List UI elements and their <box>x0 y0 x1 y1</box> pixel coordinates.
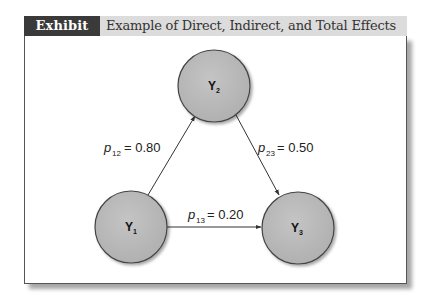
svg-text:= 0.20: = 0.20 <box>207 207 244 222</box>
svg-text:p: p <box>257 140 265 155</box>
node-y3-subscript: 3 <box>299 229 303 236</box>
svg-text:= 0.50: = 0.50 <box>277 140 314 155</box>
node-y2: Y 2 <box>178 50 250 122</box>
node-y1-subscript: 1 <box>133 228 137 235</box>
svg-text:p: p <box>187 207 195 222</box>
edge-label-p23: p 23 = 0.50 <box>257 140 314 158</box>
node-y3-label: Y <box>291 221 299 235</box>
path-diagram: Y 2 Y 1 Y 3 p 12 = 0.80 p 23 = 0.50 p 13… <box>0 0 433 307</box>
svg-text:= 0.80: = 0.80 <box>124 140 161 155</box>
node-y1-label: Y <box>125 220 133 234</box>
edge-label-p12: p 12 = 0.80 <box>103 140 161 158</box>
node-y1: Y 1 <box>95 191 167 263</box>
edge-label-p13: p 13 = 0.20 <box>187 207 244 225</box>
node-y2-subscript: 2 <box>216 87 220 94</box>
node-y3: Y 3 <box>262 192 334 264</box>
node-y2-label: Y <box>208 79 216 93</box>
svg-text:p: p <box>103 140 111 155</box>
svg-text:23: 23 <box>266 149 275 158</box>
edge-y1-y2 <box>148 116 195 195</box>
svg-text:13: 13 <box>196 216 205 225</box>
svg-text:12: 12 <box>112 149 121 158</box>
